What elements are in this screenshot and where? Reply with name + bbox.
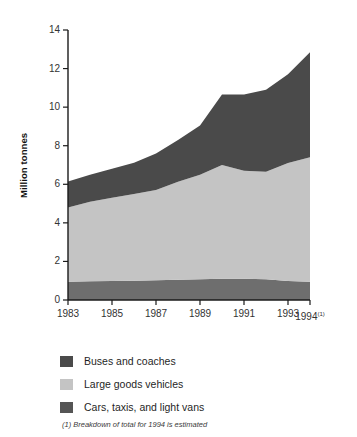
- legend-label-buses: Buses and coaches: [84, 356, 176, 367]
- legend-swatch-buses: [60, 356, 73, 367]
- area-band-cars-taxis-and-light-vans: [68, 279, 310, 300]
- chart-plot-region: Million tonnes 02468101214 1983198519871…: [0, 0, 357, 320]
- area-series-layer: [68, 52, 310, 300]
- legend-label-cars: Cars, taxis, and light vans: [84, 402, 204, 413]
- legend-swatch-cars: [60, 402, 73, 413]
- chart-legend: Buses and coaches Large goods vehicles C…: [60, 350, 350, 419]
- area-chart-svg: [0, 0, 357, 320]
- legend-item-cars[interactable]: Cars, taxis, and light vans: [60, 396, 350, 419]
- legend-item-goods[interactable]: Large goods vehicles: [60, 373, 350, 396]
- legend-label-goods: Large goods vehicles: [84, 379, 183, 390]
- chart-footnote: (1) Breakdown of total for 1994 is estim…: [62, 420, 342, 429]
- legend-item-buses[interactable]: Buses and coaches: [60, 350, 350, 373]
- legend-swatch-goods: [60, 379, 73, 390]
- chart-figure: Million tonnes 02468101214 1983198519871…: [0, 0, 357, 437]
